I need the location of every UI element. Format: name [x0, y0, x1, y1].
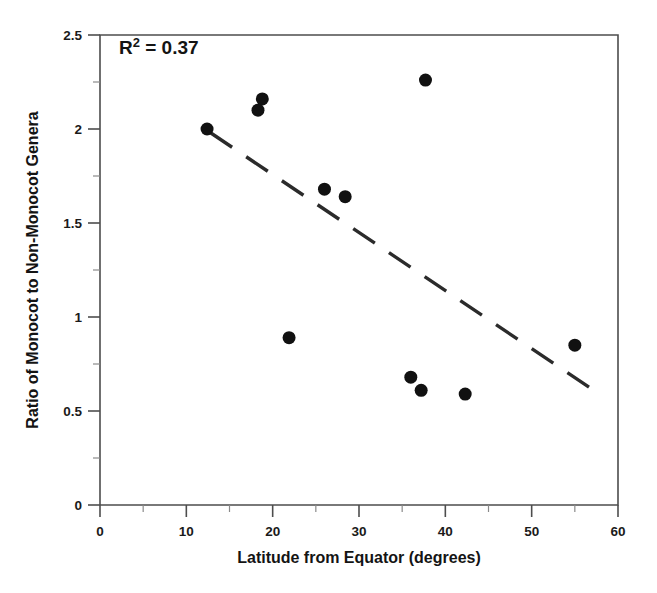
y-tick-label-1: 0.5 [63, 404, 82, 419]
chart-figure: 00.511.522.50102030405060R2 = 0.37Latitu… [0, 0, 657, 593]
x-tick-label-1: 10 [179, 524, 194, 539]
x-tick-label-3: 30 [351, 524, 366, 539]
scatter-plot: 00.511.522.50102030405060R2 = 0.37Latitu… [0, 0, 657, 593]
y-tick-label-4: 2 [74, 122, 82, 137]
x-tick-label-2: 20 [265, 524, 280, 539]
x-axis-title: Latitude from Equator (degrees) [237, 549, 481, 566]
plot-frame [100, 35, 618, 505]
x-tick-label-4: 40 [438, 524, 453, 539]
data-point [201, 123, 214, 136]
x-tick-label-0: 0 [96, 524, 104, 539]
y-tick-label-3: 1.5 [63, 216, 82, 231]
trend-line [211, 133, 601, 395]
data-point [339, 190, 352, 203]
data-point [404, 371, 417, 384]
x-tick-label-6: 60 [610, 524, 625, 539]
data-point [251, 104, 264, 117]
y-tick-label-2: 1 [74, 310, 82, 325]
data-point [419, 74, 432, 87]
r-squared-annotation: R2 = 0.37 [119, 35, 199, 58]
data-point [415, 384, 428, 397]
x-tick-label-5: 50 [524, 524, 539, 539]
y-tick-label-0: 0 [74, 498, 82, 513]
data-point [256, 92, 269, 105]
y-axis-title: Ratio of Monocot to Non-Monocot Genera [24, 111, 41, 428]
data-point [318, 183, 331, 196]
data-point [459, 388, 472, 401]
data-point [568, 339, 581, 352]
data-point [283, 331, 296, 344]
y-tick-label-5: 2.5 [63, 28, 82, 43]
